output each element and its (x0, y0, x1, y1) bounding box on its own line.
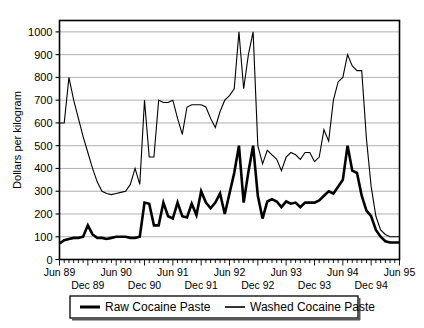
x-tick-label: Dec 93 (298, 279, 331, 291)
x-tick-label: Dec 89 (71, 279, 104, 291)
chart-figure: 01002003004005006007008009001000 Jun 89J… (0, 0, 424, 328)
y-tick-label: 0 (46, 254, 52, 266)
x-tick-label: Dec 91 (185, 279, 218, 291)
x-tick-label: Jun 94 (327, 266, 359, 278)
y-tick-label: 600 (34, 117, 52, 129)
x-tick-label: Jun 95 (384, 266, 416, 278)
y-tick-label: 100 (34, 231, 52, 243)
y-tick-label: 1000 (28, 26, 52, 38)
legend-box-shadow (72, 318, 360, 321)
legend-label-raw-cocaine-paste: Raw Cocaine Paste (105, 300, 211, 314)
cocaine-paste-price-chart: 01002003004005006007008009001000 Jun 89J… (0, 0, 424, 328)
y-tick-label: 800 (34, 71, 52, 83)
y-tick-label: 700 (34, 94, 52, 106)
x-tick-label: Jun 91 (157, 266, 189, 278)
y-tick-label: 200 (34, 208, 52, 220)
y-tick-label: 400 (34, 162, 52, 174)
x-tick-label: Jun 90 (100, 266, 132, 278)
y-tick-label: 900 (34, 49, 52, 61)
y-axis-title: Dollars per kilogram (11, 91, 23, 189)
y-tick-label: 500 (34, 140, 52, 152)
y-tick-label: 300 (34, 185, 52, 197)
x-tick-label: Jun 93 (270, 266, 302, 278)
x-tick-label: Dec 90 (128, 279, 161, 291)
x-tick-label: Jun 89 (44, 266, 76, 278)
x-tick-label: Dec 92 (241, 279, 274, 291)
x-tick-label: Jun 92 (214, 266, 246, 278)
legend-label-washed-cocaine-paste: Washed Cocaine Paste (250, 300, 375, 314)
x-tick-label: Dec 94 (355, 279, 388, 291)
